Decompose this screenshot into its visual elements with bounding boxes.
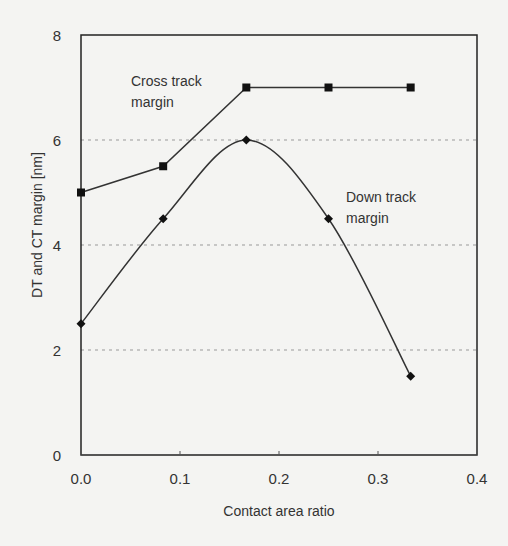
x-tick-label: 0.2 — [269, 470, 290, 487]
data-point — [77, 189, 85, 197]
series-annotation: Down track — [346, 189, 417, 205]
x-tick-label: 0.1 — [170, 470, 191, 487]
series-down-track-margin — [77, 136, 416, 381]
x-tick-label: 0.3 — [368, 470, 389, 487]
x-axis: 0.00.10.20.30.4 — [71, 451, 488, 487]
series-line — [81, 140, 411, 376]
series-annotation: margin — [346, 210, 389, 226]
chart: 0.00.10.20.30.4 02468 Contact area ratio… — [0, 0, 508, 546]
x-axis-title: Contact area ratio — [223, 503, 334, 519]
y-axis: 02468 — [53, 27, 61, 464]
data-point — [407, 84, 415, 92]
x-tick-label: 0.0 — [71, 470, 92, 487]
data-point — [159, 162, 167, 170]
y-tick-label: 0 — [53, 447, 61, 464]
series-annotation: margin — [131, 94, 174, 110]
data-point — [406, 372, 415, 381]
y-tick-label: 8 — [53, 27, 61, 44]
annotations: Cross trackmarginDown trackmargin — [131, 73, 417, 226]
data-point — [242, 84, 250, 92]
series-annotation: Cross track — [131, 73, 203, 89]
data-point — [242, 136, 251, 145]
data-point — [324, 214, 333, 223]
y-axis-title: DT and CT margin [nm] — [29, 152, 45, 298]
y-tick-label: 6 — [53, 132, 61, 149]
data-point — [325, 84, 333, 92]
y-tick-label: 4 — [53, 237, 61, 254]
y-tick-label: 2 — [53, 342, 61, 359]
series-layer — [77, 84, 416, 381]
x-tick-label: 0.4 — [467, 470, 488, 487]
